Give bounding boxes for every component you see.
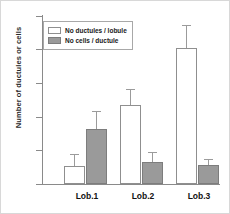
y-axis-label: Number of ductules or cells bbox=[14, 3, 23, 153]
errorcap-lob1-cells bbox=[92, 111, 101, 112]
errorbar-lob3-ductules bbox=[186, 26, 187, 48]
x-tick-label-lob3: Lob.3 bbox=[176, 191, 222, 201]
errorcap-lob3-cells bbox=[204, 159, 213, 160]
errorbar-lob1-ductules bbox=[74, 155, 75, 166]
errorbar-lob3-cells bbox=[208, 160, 209, 165]
y-tick-0 bbox=[36, 184, 42, 185]
bar-lob3-cells bbox=[198, 165, 219, 184]
errorcap-lob3-ductules bbox=[182, 25, 191, 26]
bar-lob1-cells bbox=[86, 129, 107, 184]
errorcap-lob2-cells bbox=[148, 152, 157, 153]
x-tick-label-lob2: Lob.2 bbox=[120, 191, 166, 201]
legend-label-cells: No cells / ductule bbox=[65, 37, 118, 44]
bar-lob3-ductules bbox=[176, 48, 197, 184]
errorbar-lob2-cells bbox=[152, 153, 153, 162]
legend-entry-ductules: No ductules / lobule bbox=[48, 26, 127, 35]
errorcap-lob1-ductules bbox=[70, 154, 79, 155]
legend-swatch-filled-icon bbox=[48, 37, 61, 44]
legend-entry-cells: No cells / ductule bbox=[48, 36, 127, 45]
bar-lob1-ductules bbox=[64, 166, 85, 184]
legend-swatch-open-icon bbox=[48, 27, 61, 34]
bar-lob2-ductules bbox=[120, 105, 141, 184]
x-axis-line bbox=[42, 184, 220, 185]
errorbar-lob1-cells bbox=[96, 112, 97, 129]
errorcap-lob2-ductules bbox=[126, 89, 135, 90]
errorbar-lob2-ductules bbox=[130, 90, 131, 105]
chart-legend: No ductules / lobule No cells / ductule bbox=[43, 21, 133, 50]
legend-label-ductules: No ductules / lobule bbox=[65, 27, 127, 34]
x-tick-label-lob1: Lob.1 bbox=[64, 191, 110, 201]
bar-chart-figure: Number of ductules or cells 100 80 60 40… bbox=[0, 0, 230, 214]
bar-lob2-cells bbox=[142, 162, 163, 184]
